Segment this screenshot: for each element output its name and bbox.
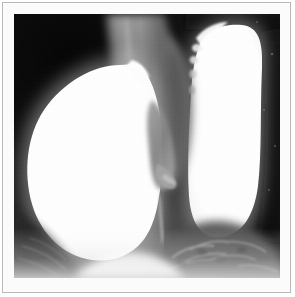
radiograph-svg bbox=[14, 14, 280, 278]
gastric-body-barium-column bbox=[183, 20, 266, 245]
screenshot-root: Barium contrast radiograph Upper gastroi… bbox=[0, 0, 295, 297]
radiograph-plate bbox=[14, 14, 280, 278]
bottom-haze-band bbox=[14, 228, 280, 278]
